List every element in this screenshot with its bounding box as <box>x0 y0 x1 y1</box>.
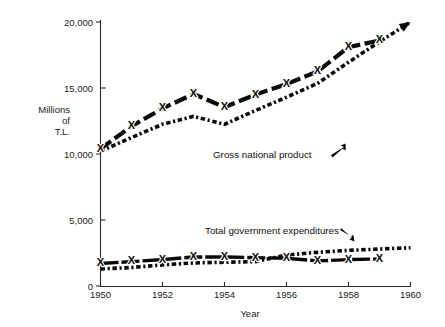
x-tick-label-1954: 1954 <box>214 289 235 300</box>
x-axis <box>101 282 412 287</box>
marker-government-1959: X <box>376 252 384 264</box>
arrow-down-right-icon <box>340 228 355 241</box>
x-tick-label-1960: 1960 <box>400 289 421 300</box>
marker-government-1955: X <box>252 251 260 263</box>
marker-government-1957: X <box>314 254 322 266</box>
y-axis-title-line-1: Millions <box>38 104 70 115</box>
marker-gnp-1955: X <box>252 88 260 100</box>
y-tick-label-20000: 20,000 <box>64 17 93 28</box>
x-tick-label-1956: 1956 <box>276 289 297 300</box>
x-tick-label-1950: 1950 <box>90 289 111 300</box>
marker-government-1958: X <box>345 253 353 265</box>
y-axis-title-line-3: T.L. <box>55 126 70 137</box>
arrow-up-right-icon <box>331 144 346 158</box>
marker-gnp-1954: X <box>221 100 229 112</box>
marker-gnp-1958: X <box>345 40 353 52</box>
chart-figure: 20,000 15,000 10,000 5,000 0 1950 1952 1… <box>0 0 445 327</box>
annotation-label-gnp: Gross national product <box>213 149 312 160</box>
marker-gnp-1956: X <box>283 77 291 89</box>
marker-government-1950: X <box>97 256 105 268</box>
y-tick-label-5000: 5,000 <box>69 215 93 226</box>
marker-gnp-1952: X <box>159 101 167 113</box>
marker-gnp-1959: X <box>376 33 384 45</box>
y-tick-label-10000: 10,000 <box>64 149 93 160</box>
marker-gnp-1950: X <box>97 142 105 154</box>
x-axis-title: Year <box>240 308 259 319</box>
marker-gnp-1953: X <box>190 87 198 99</box>
y-tick-label-15000: 15,000 <box>64 83 93 94</box>
marker-government-1956: X <box>283 251 291 263</box>
marker-government-1952: X <box>159 253 167 265</box>
annotation-total-government-expenditures: Total government expenditures <box>205 225 355 242</box>
marker-government-1954: X <box>221 250 229 262</box>
x-tick-label-1958: 1958 <box>338 289 359 300</box>
y-axis-title-line-2: of <box>62 115 70 126</box>
marker-government-1953: X <box>190 250 198 262</box>
marker-gnp-1951: X <box>128 119 136 131</box>
x-tick-label-1952: 1952 <box>152 289 173 300</box>
marker-gnp-1957: X <box>314 64 322 76</box>
annotation-label-government: Total government expenditures <box>205 225 339 236</box>
marker-government-1951: X <box>128 254 136 266</box>
annotation-gross-national-product: Gross national product <box>213 144 346 161</box>
series-line-gnp-marked <box>101 40 380 148</box>
chart-plot-area: 20,000 15,000 10,000 5,000 0 1950 1952 1… <box>0 0 445 327</box>
